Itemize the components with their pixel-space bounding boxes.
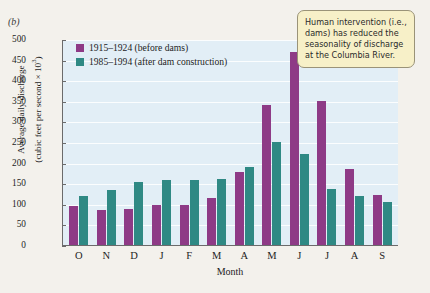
plot-area bbox=[62, 40, 398, 246]
bar bbox=[69, 206, 78, 245]
x-tick-label: J bbox=[286, 250, 312, 261]
bar bbox=[162, 180, 171, 245]
y-axis-title: Average daily discharge (cubic feet per … bbox=[16, 20, 43, 200]
legend-swatch bbox=[76, 58, 84, 66]
y-tick-mark bbox=[62, 102, 66, 103]
x-tick-label: A bbox=[342, 250, 368, 261]
bar bbox=[134, 182, 143, 245]
y-tick-mark bbox=[62, 40, 66, 41]
bar-group bbox=[69, 40, 88, 245]
y-tick-mark bbox=[62, 122, 66, 123]
x-tick-label: J bbox=[314, 250, 340, 261]
legend-swatch bbox=[76, 44, 84, 52]
y-tick-label: 350 bbox=[0, 96, 26, 106]
x-tick-label: S bbox=[369, 250, 395, 261]
x-tick-label: J bbox=[149, 250, 175, 261]
bar bbox=[272, 142, 281, 245]
y-tick-mark bbox=[62, 81, 66, 82]
bar bbox=[290, 52, 299, 245]
y-tick-mark bbox=[62, 184, 66, 185]
bar-group bbox=[235, 40, 254, 245]
legend-item: 1985–1994 (after dam construction) bbox=[76, 55, 227, 69]
y-tick-label: 100 bbox=[0, 199, 26, 209]
bar-group bbox=[262, 40, 281, 245]
bar bbox=[207, 198, 216, 245]
x-tick-label: D bbox=[121, 250, 147, 261]
bar bbox=[79, 196, 88, 245]
y-tick-mark bbox=[62, 205, 66, 206]
y-tick-label: 50 bbox=[0, 219, 26, 229]
bar bbox=[317, 101, 326, 245]
bar-group bbox=[207, 40, 226, 245]
bar bbox=[383, 202, 392, 245]
bar bbox=[327, 189, 336, 245]
x-tick-label: O bbox=[66, 250, 92, 261]
x-tick-label: N bbox=[93, 250, 119, 261]
bar-group bbox=[180, 40, 199, 245]
x-axis-title: Month bbox=[62, 266, 398, 277]
legend: 1915–1924 (before dams)1985–1994 (after … bbox=[76, 41, 227, 69]
bar-group bbox=[152, 40, 171, 245]
bar-group bbox=[124, 40, 143, 245]
y-tick-mark bbox=[62, 246, 66, 247]
y-tick-label: 150 bbox=[0, 178, 26, 188]
bar bbox=[262, 105, 271, 245]
legend-label: 1915–1924 (before dams) bbox=[89, 41, 188, 55]
x-tick-label: A bbox=[231, 250, 257, 261]
y-tick-label: 400 bbox=[0, 75, 26, 85]
bar-group bbox=[317, 40, 336, 245]
bar bbox=[245, 167, 254, 245]
bar bbox=[355, 196, 364, 245]
bar bbox=[217, 179, 226, 245]
bar bbox=[107, 190, 116, 245]
bar-groups bbox=[63, 40, 398, 245]
y-tick-label: 200 bbox=[0, 158, 26, 168]
y-axis-title-line2: (cubic feet per second × 103) bbox=[28, 20, 44, 200]
y-tick-mark bbox=[62, 61, 66, 62]
bar bbox=[300, 154, 309, 245]
x-tick-label: M bbox=[204, 250, 230, 261]
x-tick-label: M bbox=[259, 250, 285, 261]
legend-label: 1985–1994 (after dam construction) bbox=[89, 55, 227, 69]
y-tick-mark bbox=[62, 164, 66, 165]
bar bbox=[373, 195, 382, 245]
bar bbox=[152, 205, 161, 245]
legend-item: 1915–1924 (before dams) bbox=[76, 41, 227, 55]
bar bbox=[235, 172, 244, 245]
y-tick-label: 0 bbox=[0, 240, 26, 250]
y-tick-mark bbox=[62, 143, 66, 144]
y-tick-mark bbox=[62, 225, 66, 226]
y-tick-label: 450 bbox=[0, 55, 26, 65]
x-tick-label: F bbox=[176, 250, 202, 261]
y-tick-label: 300 bbox=[0, 116, 26, 126]
bar bbox=[124, 209, 133, 245]
bar bbox=[190, 180, 199, 245]
y-tick-label: 500 bbox=[0, 34, 26, 44]
bar-group bbox=[97, 40, 116, 245]
bar-group bbox=[345, 40, 364, 245]
bar bbox=[345, 169, 354, 245]
annotation-callout: Human intervention (i.e., dams) has redu… bbox=[297, 10, 415, 68]
y-tick-label: 250 bbox=[0, 137, 26, 147]
bar-group bbox=[290, 40, 309, 245]
bar bbox=[180, 205, 189, 245]
bar-group bbox=[373, 40, 392, 245]
bar bbox=[97, 210, 106, 245]
